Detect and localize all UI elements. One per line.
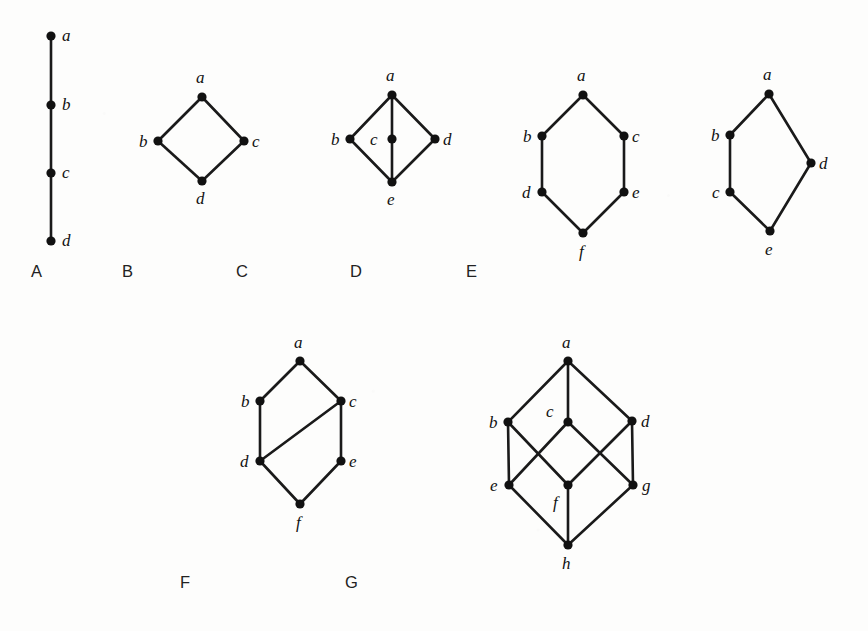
graph-vertex [46, 236, 55, 245]
graph-edge [632, 421, 633, 485]
vertex-label: a [294, 333, 303, 352]
edge-layer [542, 95, 624, 233]
graph-vertex [725, 187, 734, 196]
vertex-label: c [252, 132, 260, 151]
graph-caption: F [180, 573, 190, 591]
graph-vertex [627, 416, 636, 425]
graph-c: abcdeC [236, 66, 452, 280]
vertex-label: f [296, 513, 303, 532]
graph-f: abcdefF [180, 333, 357, 591]
graph-vertex [578, 228, 587, 237]
graph-edge [392, 139, 435, 182]
vertex-label: c [370, 130, 378, 149]
graph-edge [583, 192, 624, 233]
vertex-label: a [562, 333, 571, 352]
graph-vertex [430, 134, 439, 143]
graph-g: abcdefghG [345, 333, 651, 591]
graph-edge [508, 422, 509, 485]
graph-vertex [153, 136, 162, 145]
vertex-layer: abcde [331, 66, 452, 209]
vertex-label: b [523, 127, 532, 146]
graph-vertex [387, 90, 396, 99]
vertex-label: e [765, 240, 773, 259]
graph-caption: A [31, 262, 42, 280]
graph-vertex [197, 176, 206, 185]
vertex-layer: abcdef [522, 66, 640, 261]
vertex-label: d [240, 452, 249, 471]
graph-vertex [46, 100, 55, 109]
vertex-label: d [641, 412, 650, 431]
vertex-label: b [139, 132, 148, 151]
graph-edge [508, 361, 568, 422]
graph-vertex [563, 417, 572, 426]
vertex-layer: abcd [139, 68, 260, 208]
graph-canvas: abcdAabcdBabcdeCabcdefDabcdeEabcdefFabcd… [0, 0, 868, 631]
vertex-label: a [62, 26, 71, 45]
vertex-label: c [62, 163, 70, 182]
graph-edge [509, 485, 568, 545]
graph-edge [730, 192, 770, 231]
vertex-layer: abcdefgh [489, 333, 651, 573]
vertex-label: b [489, 413, 498, 432]
vertex-label: b [711, 126, 720, 145]
graph-vertex [537, 131, 546, 140]
graph-edge [202, 141, 244, 181]
graph-caption: D [350, 262, 362, 280]
graph-vertex [725, 130, 734, 139]
graph-vertex [295, 499, 304, 508]
graph-vertex [537, 187, 546, 196]
vertex-label: a [763, 65, 772, 84]
graph-edge [300, 461, 341, 504]
graph-edge [770, 163, 811, 231]
vertex-label: e [349, 452, 357, 471]
graph-vertex [563, 540, 572, 549]
vertex-label: b [62, 95, 71, 114]
graph-caption: C [236, 262, 248, 280]
graph-vertex [619, 187, 628, 196]
graph-vertex [197, 92, 206, 101]
vertex-label: d [196, 189, 205, 208]
vertex-label: d [443, 130, 452, 149]
graph-vertex [255, 396, 264, 405]
graph-vertex [345, 134, 354, 143]
graph-edge [568, 361, 632, 421]
graph-edge [583, 95, 624, 136]
graph-figure: abcdAabcdBabcdeCabcdefDabcdeEabcdefFabcd… [0, 0, 868, 631]
edge-layer [158, 97, 244, 181]
graph-caption: B [122, 262, 133, 280]
vertex-label: c [632, 127, 640, 146]
vertex-label: d [819, 154, 828, 173]
vertex-label: a [196, 68, 205, 87]
edge-layer [260, 361, 341, 504]
graph-vertex [764, 89, 773, 98]
vertex-label: g [642, 476, 651, 495]
graph-vertex [503, 417, 512, 426]
vertex-label: c [546, 402, 554, 421]
graph-vertex [387, 177, 396, 186]
graph-a: abcdA [31, 26, 71, 280]
graph-vertex [46, 168, 55, 177]
graph-vertex [578, 90, 587, 99]
graph-edge [568, 485, 633, 545]
graph-edge [260, 401, 341, 461]
graph-edge [542, 192, 583, 233]
graph-edge [392, 95, 435, 139]
graph-edge [158, 97, 202, 141]
graph-edge [260, 361, 300, 401]
graph-caption: G [345, 573, 358, 591]
graph-edge [202, 97, 244, 141]
graph-edge [300, 361, 341, 401]
graph-vertex [255, 456, 264, 465]
vertex-label: b [241, 392, 250, 411]
graph-edge [260, 461, 300, 504]
graph-vertex [806, 158, 815, 167]
graph-vertex [239, 136, 248, 145]
vertex-label: d [522, 183, 531, 202]
vertex-layer: abcde [711, 65, 828, 259]
graph-vertex [387, 134, 396, 143]
vertex-label: b [331, 130, 340, 149]
graph-vertex [563, 356, 572, 365]
graph-caption: E [466, 262, 477, 280]
graph-vertex [504, 480, 513, 489]
vertex-label: f [553, 493, 560, 512]
